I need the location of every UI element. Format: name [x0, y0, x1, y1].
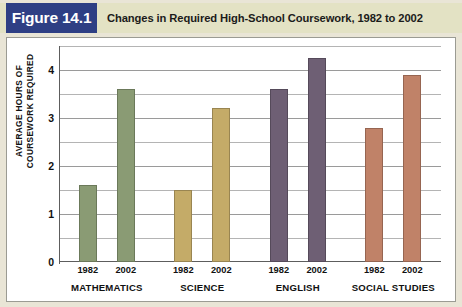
year-label-social-studies-1982: 1982 [354, 266, 394, 275]
year-label-mathematics-1982: 1982 [68, 266, 108, 275]
figure-container: Figure 14.1 Changes in Required High-Sch… [0, 0, 462, 307]
chart-panel: AVERAGE HOURS OF COURSEWORK REQUIRED 012… [6, 37, 456, 302]
bar-science-2002 [212, 108, 230, 262]
x-axis-labels: 19822002MATHEMATICS19822002SCIENCE198220… [59, 266, 441, 300]
figure-header: Figure 14.1 Changes in Required High-Sch… [0, 3, 462, 33]
y-axis-title: AVERAGE HOURS OF COURSEWORK REQUIRED [12, 31, 38, 191]
gridline-4 [59, 70, 441, 71]
y-tick-label-1: 1 [48, 209, 54, 220]
y-tick-label-2: 2 [48, 161, 54, 172]
bar-social-studies-2002 [403, 75, 421, 262]
figure-caption: Changes in Required High-School Coursewo… [107, 3, 423, 33]
bar-social-studies-1982 [365, 128, 383, 262]
year-label-science-2002: 2002 [201, 266, 241, 275]
year-label-social-studies-2002: 2002 [392, 266, 432, 275]
group-label-social-studies: SOCIAL STUDIES [313, 283, 462, 293]
plot-wrapper: AVERAGE HOURS OF COURSEWORK REQUIRED 012… [7, 38, 457, 303]
bar-english-2002 [308, 58, 326, 262]
bar-science-1982 [174, 190, 192, 262]
bar-mathematics-1982 [79, 185, 97, 262]
y-axis-line [59, 46, 60, 264]
bar-mathematics-2002 [117, 89, 135, 262]
year-label-english-2002: 2002 [297, 266, 337, 275]
gridline-4-5 [59, 46, 441, 47]
y-tick-label-3: 3 [48, 113, 54, 124]
figure-number-box: Figure 14.1 [6, 3, 97, 33]
y-tick-label-4: 4 [48, 65, 54, 76]
plot-area: 01234 [59, 46, 441, 264]
year-label-science-1982: 1982 [163, 266, 203, 275]
year-label-mathematics-2002: 2002 [106, 266, 146, 275]
y-tick-label-0: 0 [48, 257, 54, 268]
year-label-english-1982: 1982 [259, 266, 299, 275]
figure-number-label: Figure 14.1 [12, 10, 92, 26]
bar-english-1982 [270, 89, 288, 262]
